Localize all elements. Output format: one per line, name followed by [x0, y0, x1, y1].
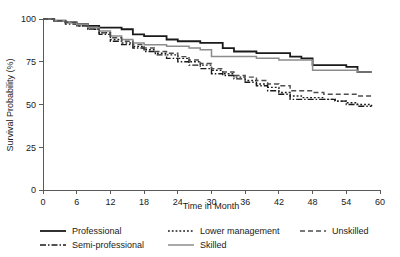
survival-probability-chart: 06121824303642485460 0255075100 Time in … — [0, 0, 400, 257]
x-tick-label-60: 60 — [375, 197, 385, 207]
y-tick-label-50: 50 — [26, 100, 36, 110]
x-tick-label-48: 48 — [308, 197, 318, 207]
chart-legend: ProfessionalSemi-professionalLower manag… — [40, 226, 369, 250]
x-tick-label-12: 12 — [105, 197, 115, 207]
x-tick-label-54: 54 — [341, 197, 351, 207]
x-tick-label-18: 18 — [139, 197, 149, 207]
y-axis-title: Survival Probability (%) — [5, 58, 15, 151]
legend-label-skilled: Skilled — [200, 240, 227, 250]
x-tick-label-36: 36 — [240, 197, 250, 207]
x-tick-label-6: 6 — [74, 197, 79, 207]
legend-label-unskilled: Unskilled — [332, 226, 369, 236]
y-tick-label-100: 100 — [21, 14, 36, 24]
x-tick-label-24: 24 — [173, 197, 183, 207]
x-tick-label-0: 0 — [40, 197, 45, 207]
y-axis-ticks: 0255075100 — [21, 14, 43, 195]
survival-curve-figure: 06121824303642485460 0255075100 Time in … — [0, 0, 400, 257]
legend-label-professional: Professional — [72, 226, 122, 236]
x-tick-label-42: 42 — [274, 197, 284, 207]
y-tick-label-25: 25 — [26, 143, 36, 153]
series-line-unskilled — [43, 19, 372, 96]
chart-series-group — [43, 19, 372, 106]
x-axis-title: Time in Month — [183, 201, 240, 211]
y-tick-label-0: 0 — [31, 185, 36, 195]
y-tick-label-75: 75 — [26, 57, 36, 67]
legend-label-semi-professional: Semi-professional — [72, 240, 144, 250]
legend-label-lower-management: Lower management — [200, 226, 280, 236]
